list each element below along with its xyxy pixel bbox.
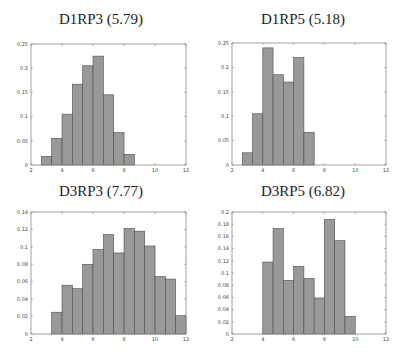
x-tick-label: 10 bbox=[352, 336, 358, 342]
x-tick-label: 6 bbox=[292, 336, 295, 342]
y-tick-label: 0.16 bbox=[218, 233, 229, 239]
x-tick-label: 12 bbox=[383, 336, 389, 342]
y-tick-label: 0.12 bbox=[218, 258, 229, 264]
y-tick-label: 0.1 bbox=[221, 270, 229, 276]
y-tick-label: 0.08 bbox=[218, 282, 229, 288]
chart-panel-d3rp5: D3RP5 (6.82) 2468101200.020.040.060.080.… bbox=[0, 0, 404, 357]
y-tick-label: 0.02 bbox=[218, 319, 229, 325]
x-tick-label: 4 bbox=[261, 336, 264, 342]
histogram-bar bbox=[304, 278, 314, 334]
histogram-bar bbox=[324, 219, 334, 334]
y-tick-label: 0 bbox=[226, 331, 229, 337]
histogram-bar bbox=[294, 266, 304, 334]
y-tick-label: 0.06 bbox=[218, 294, 229, 300]
histogram-bar bbox=[314, 298, 324, 334]
y-tick-label: 0.18 bbox=[218, 221, 229, 227]
histogram-plot: 2468101200.020.040.060.080.10.120.140.16… bbox=[0, 0, 404, 357]
histogram-bar bbox=[283, 280, 293, 334]
y-tick-label: 0.14 bbox=[218, 245, 229, 251]
x-tick-label: 2 bbox=[230, 336, 233, 342]
y-tick-label: 0.2 bbox=[221, 209, 229, 215]
histogram-bar bbox=[335, 241, 345, 334]
y-tick-label: 0.04 bbox=[218, 306, 229, 312]
histogram-bar bbox=[273, 228, 283, 334]
histogram-bar bbox=[345, 316, 355, 334]
histogram-bar bbox=[263, 262, 273, 334]
x-tick-label: 8 bbox=[323, 336, 326, 342]
